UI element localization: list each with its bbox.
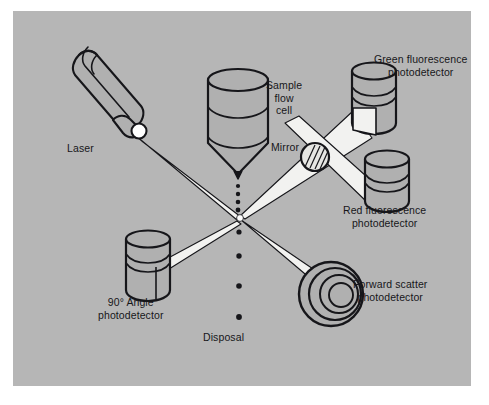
- interrogation-point: [237, 215, 244, 222]
- flow-cytometry-diagram: Laser Sample flow cell Mirror Green fluo…: [0, 0, 489, 405]
- cell-droplet: [236, 184, 240, 188]
- laser-aperture: [132, 124, 147, 139]
- cell-droplet: [236, 253, 241, 258]
- sample-flow-cell[interactable]: [208, 69, 268, 179]
- forward-scatter-detector[interactable]: [299, 262, 363, 326]
- green-fluorescence-detector[interactable]: [352, 63, 396, 136]
- cell-droplet: [236, 229, 241, 234]
- cell-stream: [236, 184, 242, 320]
- red-fluorescence-detector[interactable]: [365, 151, 409, 213]
- cell-droplet: [236, 192, 240, 196]
- diagram-panel: Laser Sample flow cell Mirror Green fluo…: [13, 11, 471, 386]
- forward-scatter-beam: [240, 219, 319, 279]
- diagram-canvas: [13, 11, 471, 386]
- cell-droplet: [236, 200, 241, 205]
- ninety-angle-detector[interactable]: [126, 231, 170, 302]
- mirror[interactable]: [301, 143, 329, 171]
- green-detector-window: [353, 108, 376, 135]
- cell-droplet: [236, 314, 242, 320]
- laser-source[interactable]: [73, 47, 147, 139]
- cell-droplet: [236, 283, 242, 289]
- cell-droplet: [236, 208, 241, 213]
